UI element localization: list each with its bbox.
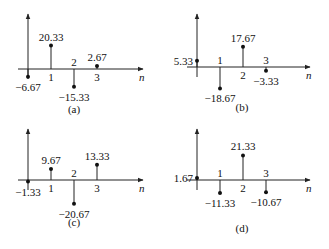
tick-label: 3 bbox=[263, 167, 269, 179]
stem-point bbox=[264, 69, 268, 73]
tick-label: 3 bbox=[94, 182, 100, 194]
stem-point bbox=[195, 59, 199, 63]
value-label: −1.33 bbox=[15, 186, 41, 198]
value-label: 20.33 bbox=[39, 31, 64, 43]
stem-point bbox=[241, 153, 245, 157]
value-label: −10.67 bbox=[251, 196, 282, 208]
stem-panel-b: n5.331−18.67217.673−3.33(b) bbox=[174, 14, 312, 114]
tick-label: 3 bbox=[263, 54, 269, 66]
stem-point bbox=[241, 45, 245, 49]
x-axis-label: n bbox=[139, 71, 145, 83]
value-label: −3.33 bbox=[253, 75, 279, 87]
x-axis-label: n bbox=[306, 182, 312, 194]
stem-point bbox=[49, 167, 53, 171]
tick-label: 2 bbox=[71, 56, 77, 68]
panel-caption: (a) bbox=[68, 103, 81, 116]
stem-point bbox=[49, 44, 53, 48]
stem-point bbox=[218, 191, 222, 195]
stem-point bbox=[26, 75, 30, 79]
stem-point bbox=[72, 85, 76, 89]
stem-plot-figure: n−6.67120.332−15.3332.67(a)n5.331−18.672… bbox=[0, 0, 329, 249]
stem-panel-d: n1.671−11.33221.333−10.67(d) bbox=[174, 129, 312, 235]
stem-point bbox=[195, 176, 199, 180]
stem-point bbox=[26, 180, 30, 184]
value-label: 13.33 bbox=[85, 150, 110, 162]
value-label: 5.33 bbox=[174, 55, 194, 67]
tick-label: 2 bbox=[240, 69, 246, 81]
value-label: −6.67 bbox=[15, 81, 41, 93]
value-label: −11.33 bbox=[205, 197, 236, 209]
tick-label: 1 bbox=[217, 167, 223, 179]
tick-label: 1 bbox=[217, 54, 223, 66]
value-label: 2.67 bbox=[87, 51, 107, 63]
panel-caption: (b) bbox=[236, 101, 249, 114]
value-label: 21.33 bbox=[231, 140, 256, 152]
value-label: −15.33 bbox=[59, 91, 90, 103]
value-label: 9.67 bbox=[41, 154, 61, 166]
stem-panel-a: n−6.67120.332−15.3332.67(a) bbox=[15, 14, 145, 116]
stem-point bbox=[95, 64, 99, 68]
panel-caption: (d) bbox=[236, 222, 249, 235]
x-axis-label: n bbox=[306, 69, 312, 81]
value-label: 17.67 bbox=[231, 32, 256, 44]
x-axis-label: n bbox=[139, 182, 145, 194]
tick-label: 2 bbox=[240, 182, 246, 194]
value-label: 1.67 bbox=[174, 172, 194, 184]
stem-point bbox=[218, 86, 222, 90]
tick-label: 1 bbox=[48, 182, 54, 194]
stem-panel-c: n−1.3319.672−20.67313.33(c) bbox=[15, 129, 145, 229]
tick-label: 1 bbox=[48, 71, 54, 83]
tick-label: 2 bbox=[71, 167, 77, 179]
panel-caption: (c) bbox=[68, 216, 81, 229]
stem-point bbox=[72, 202, 76, 206]
stem-point bbox=[264, 190, 268, 194]
tick-label: 3 bbox=[94, 71, 100, 83]
stem-point bbox=[95, 163, 99, 167]
value-label: −18.67 bbox=[205, 92, 236, 104]
